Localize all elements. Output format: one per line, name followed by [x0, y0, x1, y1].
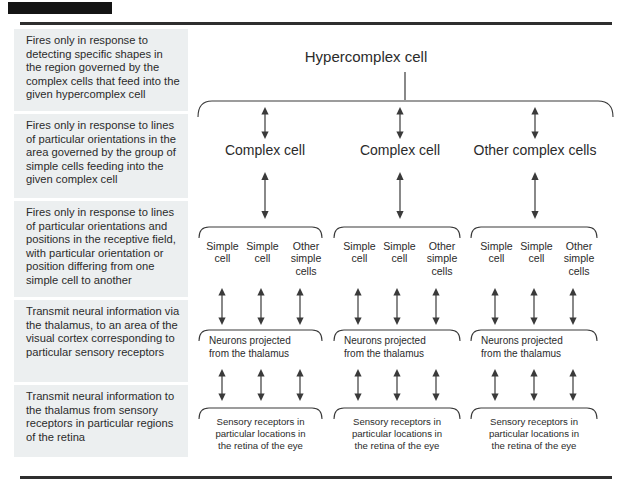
node-other-complex-cells: Other complex cells — [463, 142, 607, 158]
arrow-simple-to-neuron-3c — [569, 288, 576, 325]
box-line-1: Sensory receptors in — [199, 416, 322, 428]
arrow-neuron-to-receptor-1a — [218, 369, 225, 401]
node-label-text: Hypercomplex cell — [305, 48, 428, 65]
box-line-1: Neurons projected — [209, 335, 319, 348]
box-line-1: Sensory receptors in — [334, 416, 460, 428]
box-line-2: particular locations in — [199, 428, 322, 440]
hierarchy-diagram: Hypercomplex cell Complex cell Complex c… — [0, 0, 632, 498]
node-simple-cell-3-2: Simple cell — [514, 240, 559, 265]
arrow-complex-to-simple-2 — [396, 172, 403, 219]
arrow-complex-1 — [261, 107, 268, 139]
node-neurons-thalamus-3: Neurons projected from the thalamus — [481, 335, 591, 360]
node-sensory-receptors-1: Sensory receptors in particular location… — [199, 416, 322, 452]
cell-line-1: Other — [557, 240, 601, 252]
cell-line-1: Simple — [337, 240, 382, 252]
arrow-neuron-to-receptor-3a — [491, 369, 498, 401]
box-line-1: Sensory receptors in — [471, 416, 597, 428]
simple-group-brace-3 — [471, 227, 597, 238]
node-other-simple-cells-3: Other simple cells — [557, 240, 601, 277]
cell-line-2: cell — [337, 252, 382, 264]
box-line-3: the retina of the eye — [199, 440, 322, 452]
arrow-complex-to-simple-1 — [261, 172, 268, 219]
cell-line-2: simple — [557, 252, 601, 264]
cell-line-1: Simple — [514, 240, 559, 252]
simple-group-brace-1 — [199, 227, 322, 238]
box-line-2: from the thalamus — [481, 348, 591, 361]
cell-line-3: cells — [284, 265, 328, 277]
node-simple-cell-1-2: Simple cell — [240, 240, 285, 265]
arrow-complex-3 — [531, 107, 538, 139]
cell-line-2: simple — [420, 252, 464, 264]
arrow-simple-to-neuron-3b — [530, 288, 537, 325]
arrow-simple-to-neuron-3a — [491, 288, 498, 325]
cell-line-3: cells — [557, 265, 601, 277]
box-line-3: the retina of the eye — [334, 440, 460, 452]
arrow-neuron-to-receptor-2a — [354, 369, 361, 401]
arrow-simple-to-neuron-2a — [354, 288, 361, 325]
cell-line-2: cell — [514, 252, 559, 264]
box-line-1: Neurons projected — [481, 335, 591, 348]
complex-group-brace — [198, 101, 613, 117]
cell-line-2: cell — [200, 252, 245, 264]
box-line-2: from the thalamus — [209, 348, 319, 361]
box-line-2: particular locations in — [471, 428, 597, 440]
node-simple-cell-3-1: Simple cell — [474, 240, 519, 265]
cell-line-2: simple — [284, 252, 328, 264]
arrow-neuron-to-receptor-3c — [569, 369, 576, 401]
node-hypercomplex-cell: Hypercomplex cell — [246, 48, 486, 65]
node-other-simple-cells-1: Other simple cells — [284, 240, 328, 277]
node-label-text: Complex cell — [225, 142, 305, 158]
arrow-simple-to-neuron-2c — [432, 288, 439, 325]
box-line-2: from the thalamus — [344, 348, 454, 361]
arrow-simple-to-neuron-1a — [218, 288, 225, 325]
node-other-simple-cells-2: Other simple cells — [420, 240, 464, 277]
cell-line-2: cell — [377, 252, 422, 264]
cell-line-3: cells — [420, 265, 464, 277]
cell-line-1: Other — [420, 240, 464, 252]
node-sensory-receptors-3: Sensory receptors in particular location… — [471, 416, 597, 452]
node-neurons-thalamus-2: Neurons projected from the thalamus — [344, 335, 454, 360]
arrow-neuron-to-receptor-1c — [296, 369, 303, 401]
arrow-simple-to-neuron-2b — [393, 288, 400, 325]
cell-line-2: cell — [474, 252, 519, 264]
cell-line-1: Other — [284, 240, 328, 252]
node-simple-cell-1-1: Simple cell — [200, 240, 245, 265]
box-line-3: the retina of the eye — [471, 440, 597, 452]
arrow-simple-to-neuron-1c — [296, 288, 303, 325]
arrow-simple-to-neuron-1b — [257, 288, 264, 325]
simple-group-brace-2 — [334, 227, 460, 238]
node-simple-cell-2-1: Simple cell — [337, 240, 382, 265]
box-line-2: particular locations in — [334, 428, 460, 440]
node-complex-cell-2: Complex cell — [345, 142, 455, 158]
arrow-neuron-to-receptor-3b — [530, 369, 537, 401]
arrow-neuron-to-receptor-1b — [257, 369, 264, 401]
cell-line-1: Simple — [200, 240, 245, 252]
node-simple-cell-2-2: Simple cell — [377, 240, 422, 265]
arrow-neuron-to-receptor-2b — [393, 369, 400, 401]
box-line-1: Neurons projected — [344, 335, 454, 348]
cell-line-2: cell — [240, 252, 285, 264]
cell-line-1: Simple — [377, 240, 422, 252]
node-neurons-thalamus-1: Neurons projected from the thalamus — [209, 335, 319, 360]
arrow-complex-2 — [396, 107, 403, 139]
node-label-text: Complex cell — [360, 142, 440, 158]
cell-line-1: Simple — [474, 240, 519, 252]
node-complex-cell-1: Complex cell — [210, 142, 320, 158]
node-label-text: Other complex cells — [474, 142, 597, 158]
node-sensory-receptors-2: Sensory receptors in particular location… — [334, 416, 460, 452]
arrow-neuron-to-receptor-2c — [432, 369, 439, 401]
cell-line-1: Simple — [240, 240, 285, 252]
arrow-complex-to-simple-3 — [531, 172, 538, 219]
